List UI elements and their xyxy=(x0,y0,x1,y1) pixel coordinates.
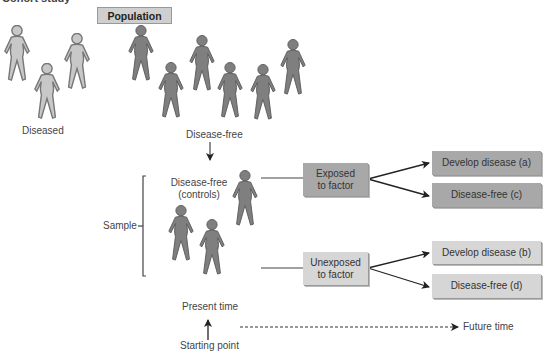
healthy-person-icon xyxy=(233,170,257,225)
controls-label: Disease-free (controls) xyxy=(168,177,230,201)
population-label: Population xyxy=(97,7,172,24)
diseased-person-icon xyxy=(35,63,59,118)
outcome-d-box: Disease-free (d) xyxy=(432,274,541,298)
arrow-to-d-icon xyxy=(368,268,429,287)
disease-free-label: Disease-free xyxy=(186,129,243,141)
exposed-box: Exposed to factor xyxy=(303,163,368,196)
starting-point-label: Starting point xyxy=(180,340,239,352)
unexposed-box: Unexposed to factor xyxy=(303,252,368,285)
controls-label-line1: Disease-free xyxy=(168,177,230,189)
future-time-label: Future time xyxy=(463,321,514,333)
diseased-person-icon xyxy=(65,33,89,88)
unexposed-line2: to factor xyxy=(310,269,361,281)
diseased-figures xyxy=(5,25,89,118)
healthy-person-icon xyxy=(169,205,193,260)
present-time-label: Present time xyxy=(182,301,238,313)
diseased-person-icon xyxy=(5,25,29,80)
arrow-to-a-icon xyxy=(368,163,429,179)
diagram-canvas xyxy=(0,0,548,354)
healthy-person-icon xyxy=(251,64,275,119)
sample-bracket xyxy=(143,176,146,276)
disease-free-figures xyxy=(129,25,305,119)
healthy-person-icon xyxy=(281,39,305,94)
healthy-person-icon xyxy=(218,62,242,117)
healthy-person-icon xyxy=(129,25,153,80)
exposed-line2: to factor xyxy=(316,180,355,192)
sample-label: Sample xyxy=(103,220,137,232)
healthy-person-icon xyxy=(200,219,224,274)
diseased-label: Diseased xyxy=(22,125,64,137)
outcome-b-box: Develop disease (b) xyxy=(432,241,541,264)
controls-label-line2: (controls) xyxy=(168,189,230,201)
healthy-person-icon xyxy=(159,62,183,117)
arrow-to-c-icon xyxy=(368,179,429,196)
exposed-line1: Exposed xyxy=(316,168,355,180)
unexposed-line1: Unexposed xyxy=(310,257,361,269)
diagram-title: Cohort study xyxy=(2,0,70,4)
healthy-person-icon xyxy=(190,35,214,90)
outcome-a-box: Develop disease (a) xyxy=(432,151,541,175)
arrow-to-b-icon xyxy=(368,253,429,268)
outcome-c-box: Disease-free (c) xyxy=(432,183,541,207)
